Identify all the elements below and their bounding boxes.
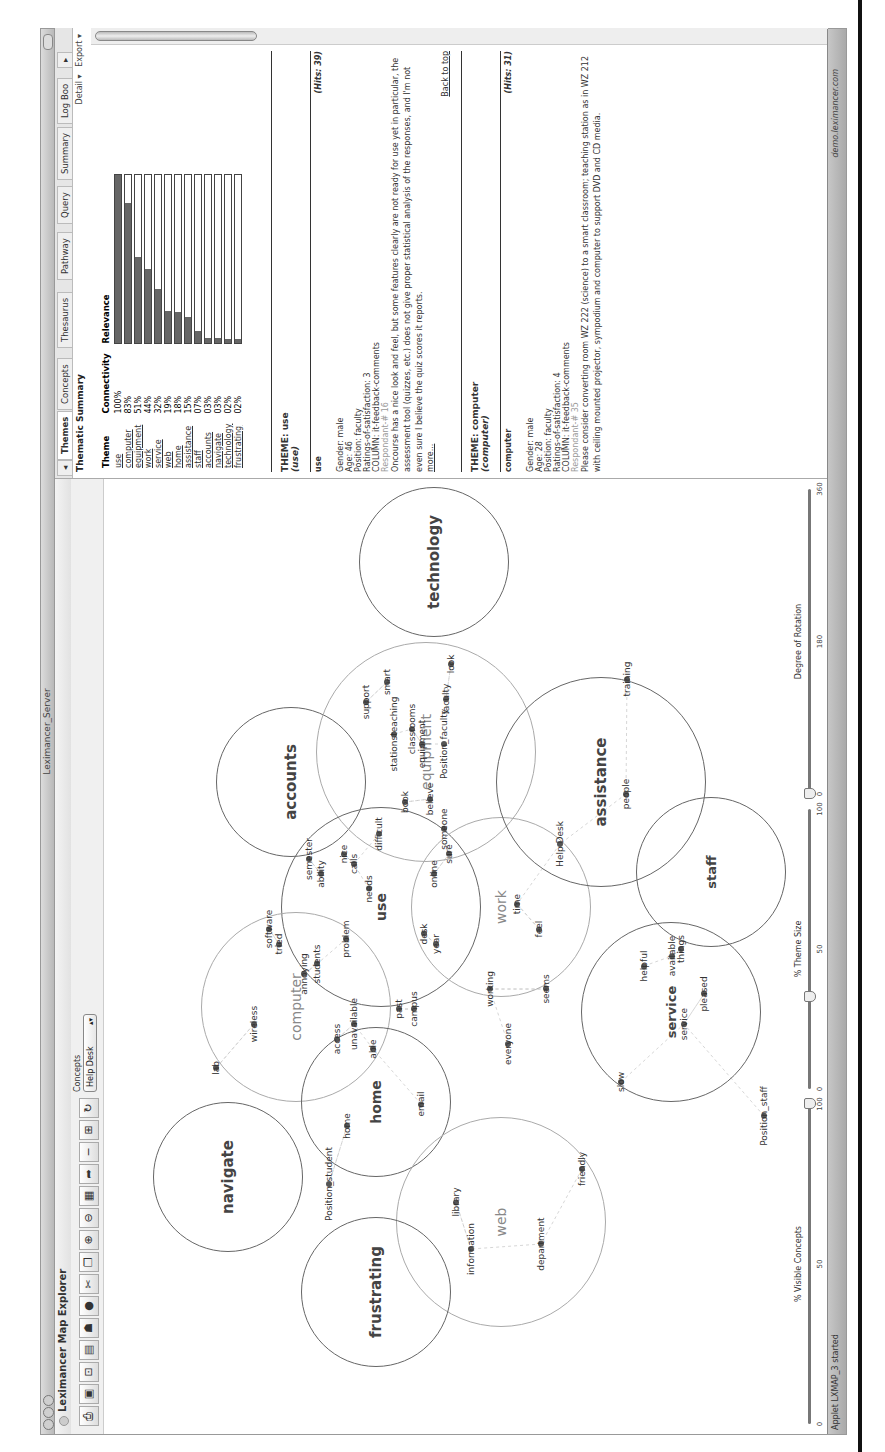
theme-link[interactable]: staff [194,450,203,468]
theme-link[interactable]: work [144,449,153,468]
tab-concepts[interactable]: Concepts [57,358,72,410]
concept-node[interactable]: feel [534,921,544,938]
concept-node[interactable]: information [466,1223,476,1275]
more-link[interactable]: more... [426,444,435,472]
concept-node[interactable]: needs [364,875,374,902]
save-icon[interactable]: ▤ [79,1340,99,1360]
concept-node[interactable]: training [622,662,632,697]
concept-node[interactable]: tried [274,934,284,955]
concept-node[interactable]: past [394,999,404,1018]
minus-icon[interactable]: − [79,1142,99,1162]
concept-node[interactable]: wireless [249,1006,259,1042]
detail-dropdown[interactable]: Detail ▾ [75,74,84,104]
tab-thesaurus[interactable]: Thesaurus [57,292,72,348]
concept-node[interactable]: smart [382,669,392,695]
tab-query[interactable]: Query [57,186,72,224]
concept-node[interactable]: service [679,1008,689,1040]
concept-node[interactable]: friendly [577,1152,587,1186]
concept-node[interactable]: problem [341,920,351,957]
theme-label[interactable]: service [664,986,679,1038]
theme-label[interactable]: assistance [592,737,610,826]
concept-node[interactable]: campus [409,991,419,1026]
concepts-dropdown[interactable]: Help Desk ▴▾ [83,1014,97,1092]
tab-summary[interactable]: Summary [57,127,72,180]
concept-node[interactable]: Position_student [324,1147,334,1221]
image-icon[interactable]: ▦ [79,1186,99,1206]
concept-node[interactable]: ability [316,860,326,888]
slider-thumb[interactable] [804,788,816,799]
concept-node[interactable]: pleased [699,976,709,1011]
rotation-slider[interactable]: Degree of Rotation 0 180 360 [794,489,826,794]
theme-link[interactable]: service [154,439,163,468]
cut-icon[interactable]: ✂ [79,1274,99,1294]
theme-link[interactable]: assistance [184,426,193,468]
concept-node[interactable]: nice [339,845,349,864]
concept-node[interactable]: time [512,894,522,914]
concept-node[interactable]: email [416,1092,426,1117]
theme-label[interactable]: accounts [282,744,300,820]
concept-node[interactable]: things [676,935,686,963]
theme-label[interactable]: frustrating [367,1246,385,1338]
theme-label[interactable]: navigate [219,1140,237,1214]
concept-node[interactable]: annoying [299,953,309,995]
concept-node[interactable]: Position_faculty [439,709,449,779]
theme-label[interactable]: technology [425,515,443,609]
concept-node[interactable]: unavailable [349,998,359,1050]
concept-node[interactable]: faculty [441,684,451,715]
concept-node[interactable]: look [446,655,456,674]
tab-log-boo[interactable]: Log Boo [57,78,72,124]
stop-icon[interactable]: ● [79,1296,99,1316]
tab-themes[interactable]: Themes [57,411,72,460]
concept-node[interactable]: support [361,685,371,720]
concept-node[interactable]: software [264,910,274,949]
theme-label[interactable]: work [493,890,509,924]
concept-node[interactable]: everyone [503,1023,513,1065]
toolbar-toggle-button[interactable] [43,34,53,50]
theme-link[interactable]: frustrating [234,426,243,468]
concept-node[interactable]: helpful [639,951,649,982]
theme-link[interactable]: use [114,454,123,468]
layout-icon[interactable]: ⊞ [79,1120,99,1140]
scrollbar-thumb[interactable] [95,31,257,41]
theme-link[interactable]: accounts [204,432,213,468]
hat-icon[interactable]: ☗ [79,1318,99,1338]
zoom-reset-icon[interactable]: ⊡ [79,1362,99,1382]
concept-node[interactable]: online [429,860,439,887]
concept-map[interactable]: technologyaccountsequipmentuseworkassist… [104,479,794,1434]
panel-scrollbar[interactable] [91,28,828,45]
slider-thumb[interactable] [804,991,816,1002]
concept-node[interactable]: classrooms [407,704,417,754]
theme-link[interactable]: computer [124,429,133,468]
arrow-icon[interactable]: ➦ [79,1164,99,1184]
copy-icon[interactable]: ❐ [79,1252,99,1272]
theme-label[interactable]: web [493,1208,509,1237]
visible-concepts-slider[interactable]: % Visible Concepts 0 50 100 [794,1104,826,1424]
concept-node[interactable]: home [342,1113,352,1139]
tabs-scroll-left[interactable]: ◂ [57,460,72,476]
concept-node[interactable]: slow [616,1072,626,1092]
concept-node[interactable]: stationsteaching [389,697,399,772]
concept-node[interactable]: Position_staff [759,1086,769,1145]
concept-node[interactable]: difficult [374,817,384,851]
concept-node[interactable]: year [431,934,441,954]
concept-node[interactable]: book [400,791,410,813]
theme-link[interactable]: web [164,451,173,468]
zoom-fit-icon[interactable]: ▣ [79,1384,99,1404]
concept-node[interactable]: people [621,779,631,810]
print-icon[interactable]: ⎙ [79,1406,99,1426]
theme-link[interactable]: home [174,445,183,468]
theme-size-slider[interactable]: % Theme Size 0 50 100 [794,809,826,1089]
concept-node[interactable]: equipment [417,720,427,769]
zoom-in-icon[interactable]: ⊕ [79,1230,99,1250]
concept-node[interactable]: Help Desk [555,821,565,867]
refresh-icon[interactable]: ↻ [79,1098,99,1118]
concept-node[interactable]: access [332,1024,342,1054]
concept-node[interactable]: working [485,971,495,1007]
concept-node[interactable]: calls [349,854,359,874]
theme-label[interactable]: home [368,1080,384,1124]
theme-link[interactable]: navigate [214,433,223,468]
concept-node[interactable]: library [451,1188,461,1217]
concept-node[interactable]: lab [211,1061,221,1075]
theme-label[interactable]: use [373,893,389,921]
slider-thumb[interactable] [804,1098,816,1109]
